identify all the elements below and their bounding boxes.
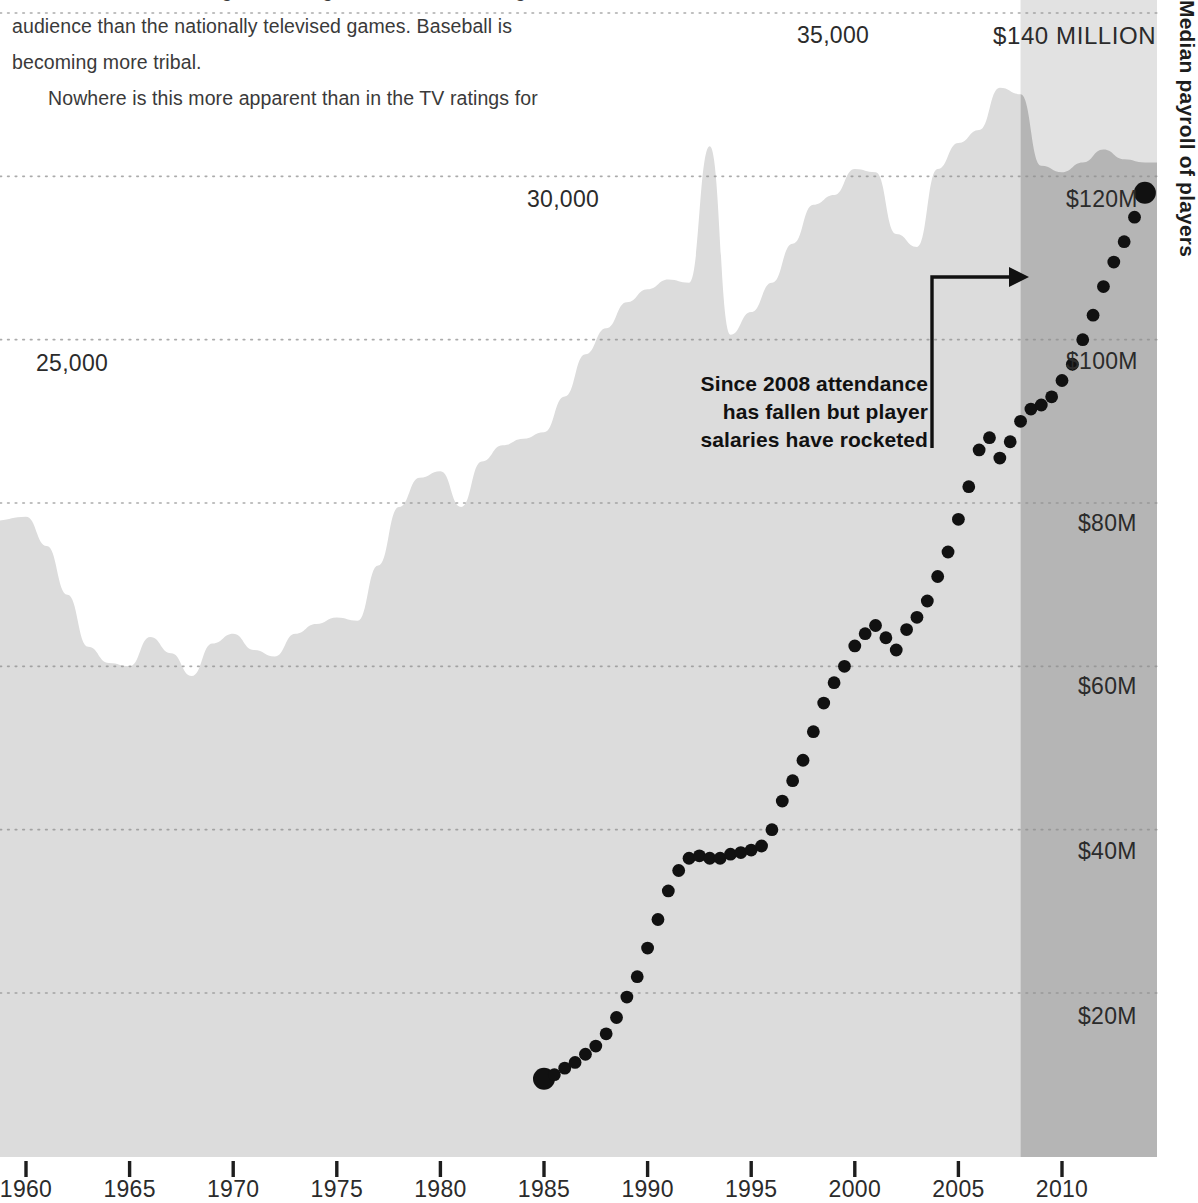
payroll-dot [1045, 390, 1058, 403]
payroll-dot [641, 942, 654, 955]
payroll-dot [1004, 435, 1017, 448]
payroll-dot [931, 570, 944, 583]
article-line-1: audience than the nationally televised g… [12, 8, 632, 44]
annotation-line-3: salaries have rocketed [666, 426, 928, 454]
right-axis-label-140m: $140 MILLION [993, 22, 1156, 50]
attendance-area-group [0, 88, 1157, 1157]
payroll-dot [600, 1027, 613, 1040]
left-axis-label-30000: 30,000 [527, 186, 599, 213]
right-axis-label-80m: $80M [1078, 510, 1137, 537]
payroll-dot [900, 623, 913, 636]
payroll-dot [755, 840, 768, 853]
right-axis-label-100m: $100M [1066, 348, 1138, 375]
right-axis-label-20m: $20M [1078, 1003, 1137, 1030]
payroll-dot [1056, 374, 1069, 387]
payroll-dot [631, 970, 644, 983]
right-axis-title: Median payroll of players [1175, 0, 1198, 460]
payroll-dot [662, 885, 675, 898]
payroll-dot [610, 1011, 623, 1024]
x-axis-label-1970: 1970 [207, 1176, 259, 1203]
payroll-dot [652, 913, 665, 926]
x-axis-label-1995: 1995 [725, 1176, 777, 1203]
payroll-dot [921, 595, 934, 608]
payroll-dot [766, 823, 779, 836]
payroll-dot [983, 431, 996, 444]
payroll-dot [776, 795, 789, 808]
payroll-dot [786, 774, 799, 787]
payroll-dot [1118, 235, 1131, 248]
payroll-dot [952, 513, 965, 526]
payroll-dot [1014, 415, 1027, 428]
payroll-dot [838, 660, 851, 673]
payroll-dot [973, 444, 986, 457]
payroll-dot [1097, 280, 1110, 293]
payroll-dot [672, 864, 685, 877]
chart-svg [0, 0, 1198, 1203]
x-axis-label-1965: 1965 [103, 1176, 155, 1203]
payroll-dot [569, 1056, 582, 1069]
x-axis-label-1990: 1990 [621, 1176, 673, 1203]
payroll-dot [817, 697, 830, 710]
x-axis-label-1980: 1980 [414, 1176, 466, 1203]
article-text: the US where local ratings for MLB games… [12, 0, 632, 116]
x-axis-label-2010: 2010 [1036, 1176, 1088, 1203]
payroll-dot [859, 627, 872, 640]
x-axis-label-1985: 1985 [518, 1176, 570, 1203]
payroll-dot [1087, 309, 1100, 322]
left-axis-label-35000: 35,000 [797, 22, 869, 49]
payroll-dot [1076, 333, 1089, 346]
payroll-dot [890, 644, 903, 657]
payroll-dot [807, 725, 820, 738]
annotation-line-2: has fallen but player [666, 398, 928, 426]
right-axis-label-120m: $120M [1066, 186, 1138, 213]
annotation-callout: Since 2008 attendance has fallen but pla… [666, 370, 928, 454]
chart-plot-area [0, 0, 1198, 1203]
payroll-dot [1107, 256, 1120, 269]
payroll-dot [962, 480, 975, 493]
payroll-dot [879, 631, 892, 644]
x-axis-group [26, 1161, 1062, 1177]
payroll-dot [942, 546, 955, 559]
annotation-line-1: Since 2008 attendance [666, 370, 928, 398]
x-axis-label-2005: 2005 [932, 1176, 984, 1203]
attendance-area-pre2008 [0, 88, 1157, 1157]
article-line-0: the US where local ratings for MLB games… [12, 0, 543, 8]
article-line-2: becoming more tribal. [12, 44, 632, 80]
x-axis-label-2000: 2000 [829, 1176, 881, 1203]
article-line-3: Nowhere is this more apparent than in th… [12, 80, 632, 116]
right-axis-label-40m: $40M [1078, 838, 1137, 865]
x-axis-label-1960: 1960 [0, 1176, 52, 1203]
left-axis-label-25000: 25,000 [36, 350, 108, 377]
payroll-dot [1035, 399, 1048, 412]
payroll-dot [589, 1040, 602, 1053]
payroll-dot [869, 619, 882, 632]
x-axis-label-1975: 1975 [311, 1176, 363, 1203]
payroll-dot [848, 640, 861, 653]
infographic-chart: the US where local ratings for MLB games… [0, 0, 1198, 1203]
payroll-dot [620, 991, 633, 1004]
payroll-dot [911, 611, 924, 624]
right-axis-label-60m: $60M [1078, 673, 1137, 700]
payroll-dot [993, 452, 1006, 465]
article-line-0-clipped: the US where local ratings for MLB games… [12, 0, 632, 8]
payroll-dot [797, 754, 810, 767]
payroll-dot [828, 676, 841, 689]
payroll-dot [579, 1048, 592, 1061]
